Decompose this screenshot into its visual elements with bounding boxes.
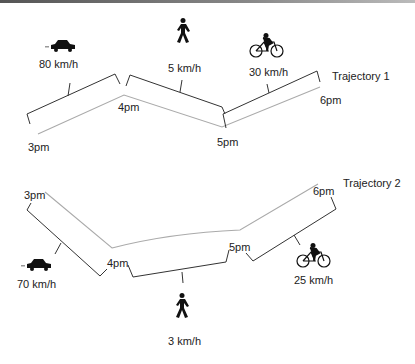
pedestrian-icon [177,18,190,43]
pedestrian-icon [176,293,189,318]
t1-time-5pm: 5pm [217,136,238,148]
t1-speed-walk: 5 km/h [168,62,201,74]
car-icon [21,259,51,271]
t2-time-3pm: 3pm [24,189,45,201]
trajectory-2-bracket-walk [128,250,229,283]
t2-title: Trajectory 2 [343,177,401,189]
t1-speed-bike: 30 km/h [249,66,288,78]
car-icon [45,40,75,52]
trajectory-1-bracket-walk [126,75,225,114]
t1-time-6pm: 6pm [320,94,341,106]
bicycle-icon [250,33,283,57]
t1-time-4pm: 4pm [118,101,139,113]
t2-time-4pm: 4pm [107,257,128,269]
t2-speed-walk: 3 km/h [168,335,201,347]
trajectory-1-bracket-bike [223,71,320,128]
bicycle-icon [297,243,330,267]
trajectory-1-bracket-car [27,74,120,124]
trajectory-1-path [38,87,320,134]
t1-speed-car: 80 km/h [39,58,78,70]
trajectory-2-path [45,184,318,248]
t2-time-5pm: 5pm [229,241,250,253]
trajectory-2-bracket-bike [246,197,336,261]
t2-time-6pm: 6pm [313,185,334,197]
t2-speed-bike: 25 km/h [294,274,333,286]
t2-speed-car: 70 km/h [17,278,56,290]
t1-time-3pm: 3pm [28,141,49,153]
t1-title: Trajectory 1 [332,70,390,82]
